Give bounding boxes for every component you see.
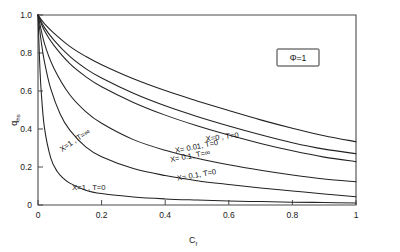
y-axis-tick-labels: 00.20.40.60.81.0 (20, 10, 32, 210)
x-tick-label: 0.6 (223, 210, 235, 220)
y-tick-label: 1.0 (20, 10, 32, 20)
x-tick-label: 0.2 (96, 210, 108, 220)
y-tick-label: 0.8 (20, 48, 32, 58)
svg-text:Cf: Cf (189, 235, 198, 247)
annotation-label: Φ=1 (290, 53, 307, 63)
x-axis-tick-labels: 00.20.40.60.81 (36, 210, 359, 220)
y-tick-label: 0.2 (20, 162, 32, 172)
annotation-box-phi: Φ=1 (277, 49, 319, 66)
curve-x-0-1-t-inf (38, 15, 356, 162)
x-tick-label: 0.8 (286, 210, 298, 220)
y-tick-label: 0.4 (20, 124, 32, 134)
chart-figure: 00.20.40.60.81 00.20.40.60.81.0 X=0 , T=… (0, 0, 400, 252)
x-tick-label: 0 (36, 210, 41, 220)
y-axis-title-sub: hs (15, 114, 21, 120)
x-axis-title: Cf (189, 235, 198, 247)
x-tick-label: 0.4 (159, 210, 171, 220)
curve-inline-label: X=1 , T=∞ (58, 127, 92, 154)
x-tick-label: 1 (354, 210, 359, 220)
x-axis-title-sub: f (195, 241, 197, 247)
y-axis-title: qhs (9, 114, 21, 125)
curve-inline-label: X=1 , T=0 (72, 183, 105, 192)
y-tick-label: 0.6 (20, 86, 32, 96)
curve-x-0-t-0 (38, 15, 356, 142)
svg-text:qhs: qhs (9, 114, 21, 125)
y-tick-label: 0 (27, 200, 32, 210)
decay-curves-chart: 00.20.40.60.81 00.20.40.60.81.0 X=0 , T=… (0, 0, 400, 252)
